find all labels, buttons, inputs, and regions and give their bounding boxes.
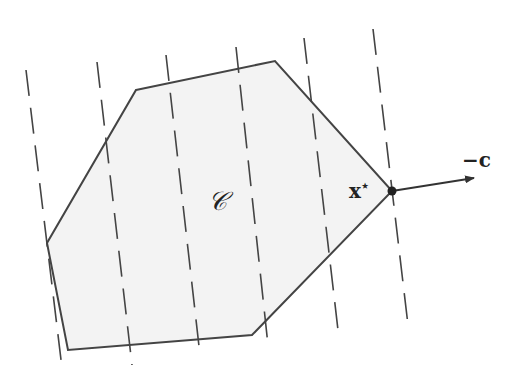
direction-arrow xyxy=(392,178,474,191)
direction-label: −c xyxy=(462,148,491,172)
region-label: 𝒞 xyxy=(208,186,227,217)
optimum-point xyxy=(388,187,397,196)
optimum-point-label: x⋆ xyxy=(349,178,369,203)
level-line xyxy=(26,70,62,368)
lp-diagram xyxy=(0,0,520,381)
